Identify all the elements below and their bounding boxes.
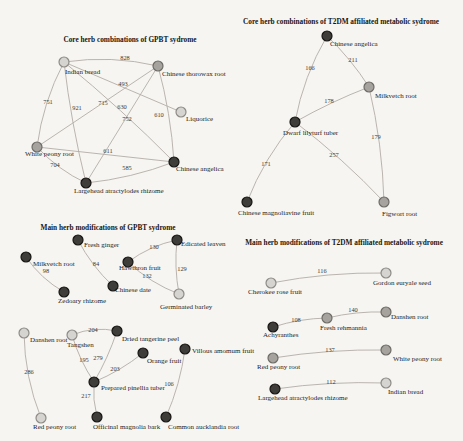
node-label-common-aucklandia-root: Common aucklandia root bbox=[168, 423, 239, 431]
edge-weight-largehead-atractylodes-rhizome--indian-bread: 112 bbox=[326, 378, 335, 385]
edge-weight-hawthron-fruit--germinated-barley: 132 bbox=[142, 272, 152, 279]
edge-weight-indian-bread--chinese-thorowax-root: 828 bbox=[120, 54, 130, 61]
edge-weight-chinese-thorowax-root--largehead-atractylodes-rhizome: 752 bbox=[122, 115, 132, 122]
edge-weight-milkvetch-root--figwort-root: 179 bbox=[371, 133, 381, 140]
panel-main-gpbt: Main herb modifications of GPBT sydrome9… bbox=[19, 223, 254, 431]
edge-weight-edicated-leaven--germinated-barley: 129 bbox=[177, 265, 187, 272]
node-label-milkvetch-root: Milkvetch root bbox=[33, 260, 75, 268]
node-label-chinese-angelica: Chinese angelica bbox=[330, 40, 379, 48]
panel-title-core-t2dm: Core herb combinations of T2DM affiliate… bbox=[243, 17, 440, 26]
node-dwarf-lilyturf-tuber bbox=[290, 117, 300, 127]
edge-weight-largehead-atractylodes-rhizome--chinese-angelica: 585 bbox=[122, 164, 132, 171]
node-label-chinese-date: Chinese date bbox=[115, 286, 151, 294]
node-white-peony-root bbox=[381, 345, 391, 355]
edge-weight-tangshen--prepared-pinellia-tuber: 195 bbox=[79, 356, 89, 363]
node-zedoary-rhizome bbox=[59, 287, 69, 297]
figure-canvas: Core herb combinations of GPBT sydrome82… bbox=[0, 0, 463, 441]
node-prepared-pinellia-tuber bbox=[89, 377, 99, 387]
node-figwort-root bbox=[379, 197, 389, 207]
node-label-white-peony-root: White peony root bbox=[25, 150, 74, 158]
node-label-largehead-atractylodes-rhizome: Largehead atractylodes rhizome bbox=[258, 394, 348, 402]
node-milkvetch-root bbox=[364, 82, 374, 92]
edge-weight-chinese-thorowax-root--white-peony-root: 715 bbox=[98, 99, 108, 106]
node-label-white-peony-root: White peony root bbox=[393, 355, 442, 363]
node-tangshen bbox=[67, 330, 77, 340]
node-label-milkvetch-root: Milkvetch root bbox=[375, 92, 417, 100]
edge-weight-dwarf-lilyturf-tuber--chinese-magnoliavine-fruit: 171 bbox=[261, 160, 271, 167]
node-danshen-root bbox=[381, 307, 391, 317]
node-fresh-rehmannia bbox=[322, 313, 332, 323]
node-red-peony-root bbox=[36, 413, 46, 423]
node-label-chinese-thorowax-root: Chinese thorowax root bbox=[162, 70, 226, 78]
node-label-dwarf-lilyturf-tuber: Dwarf lilyturf tuber bbox=[283, 129, 339, 137]
panel-title-core-gpbt: Core herb combinations of GPBT sydrome bbox=[63, 35, 197, 44]
node-cherokee-rose-fruit bbox=[266, 278, 276, 288]
node-germinated-barley bbox=[174, 289, 184, 299]
node-label-danshen-root: Danshen root bbox=[30, 336, 68, 344]
edge-dwarf-lilyturf-tuber--milkvetch-root bbox=[295, 87, 369, 122]
node-label-tangshen: Tangshen bbox=[67, 341, 94, 349]
node-label-largehead-atractylodes-rhizome: Largehead atractylodes rhizome bbox=[74, 187, 164, 195]
edge-weight-cherokee-rose-fruit--gordon-euryale-seed: 116 bbox=[317, 267, 326, 274]
node-label-indian-bread: Indian bread bbox=[65, 68, 101, 76]
edge-weight-chinese-angelica--milkvetch-root: 211 bbox=[348, 56, 357, 63]
node-red-peony-root bbox=[268, 353, 278, 363]
node-label-gordon-euryale-seed: Gordon euryale seed bbox=[373, 279, 431, 287]
panel-core-gpbt: Core herb combinations of GPBT sydrome82… bbox=[25, 35, 226, 195]
node-label-red-peony-root: Red peony root bbox=[33, 423, 76, 431]
node-label-figwort-root: Figwort root bbox=[382, 210, 417, 218]
edge-weight-fresh-rehmannia--danshen-root: 140 bbox=[348, 306, 358, 313]
node-officinal-magnolia-bark bbox=[92, 412, 102, 422]
edge-weight-indian-bread--white-peony-root: 751 bbox=[43, 98, 53, 105]
edge-weight-indian-bread--chinese-angelica: 630 bbox=[117, 103, 127, 110]
edge-danshen-root--red-peony-root bbox=[24, 333, 41, 418]
edge-chinese-angelica--dwarf-lilyturf-tuber bbox=[295, 36, 327, 122]
node-label-fresh-ginger: Fresh ginger bbox=[84, 241, 120, 249]
edge-milkvetch-root--figwort-root bbox=[369, 87, 384, 202]
node-label-liquorice: Liquorice bbox=[186, 115, 213, 123]
herb-network-figure: Core herb combinations of GPBT sydrome82… bbox=[0, 0, 463, 441]
node-liquorice bbox=[176, 107, 186, 117]
edge-weight-achyranthes--fresh-rehmannia: 108 bbox=[291, 316, 301, 323]
node-label-chinese-angelica: Chinese angelica bbox=[176, 165, 225, 173]
edge-weight-indian-bread--liquorice: 493 bbox=[118, 80, 128, 87]
node-label-chinese-magnoliavine-fruit: Chinese magnoliavine fruit bbox=[238, 209, 314, 217]
node-fresh-ginger bbox=[73, 235, 83, 245]
node-label-fresh-rehmannia: Fresh rehmannia bbox=[320, 324, 368, 332]
edge-weight-chinese-thorowax-root--chinese-angelica: 610 bbox=[154, 111, 164, 118]
edge-weight-villous-amomum-fruit--common-aucklandia-root: 106 bbox=[164, 380, 174, 387]
edge-weight-danshen-root--red-peony-root: 286 bbox=[24, 368, 34, 375]
node-dried-tangerine-peel bbox=[112, 326, 122, 336]
node-common-aucklandia-root bbox=[161, 412, 171, 422]
node-indian-bread bbox=[59, 57, 69, 67]
edge-indian-bread--largehead-atractylodes-rhizome bbox=[64, 62, 86, 183]
edge-weight-indian-bread--largehead-atractylodes-rhizome: 921 bbox=[72, 104, 82, 111]
node-label-prepared-pinellia-tuber: Prepared pinellia tuber bbox=[101, 384, 165, 392]
node-label-germinated-barley: Germinated barley bbox=[160, 303, 213, 311]
edge-cherokee-rose-fruit--gordon-euryale-seed bbox=[271, 273, 386, 283]
node-villous-amomum-fruit bbox=[180, 344, 190, 354]
node-milkvetch-root bbox=[21, 252, 31, 262]
node-danshen-root bbox=[19, 328, 29, 338]
panel-title-main-t2dm: Main herb modifications of T2DM affiliat… bbox=[245, 238, 444, 247]
node-label-officinal-magnolia-bark: Officinal magnolia bark bbox=[93, 423, 161, 431]
node-label-red-peony-root: Red peony root bbox=[257, 363, 300, 371]
edge-weight-dwarf-lilyturf-tuber--figwort-root: 257 bbox=[329, 151, 339, 158]
edge-weight-dwarf-lilyturf-tuber--milkvetch-root: 178 bbox=[324, 97, 334, 104]
node-label-indian-bread: Indian bread bbox=[388, 388, 424, 396]
edge-weight-fresh-ginger--chinese-date: 84 bbox=[93, 260, 100, 267]
node-label-danshen-root: Danshen root bbox=[391, 313, 429, 321]
node-label-dried-tangerine-peel: Dried tangerine peel bbox=[122, 335, 179, 343]
panel-main-t2dm: Main herb modifications of T2DM affiliat… bbox=[245, 238, 444, 402]
edge-weight-dried-tangerine-peel--prepared-pinellia-tuber: 279 bbox=[93, 354, 103, 361]
edge-weight-orange-fruit--prepared-pinellia-tuber: 203 bbox=[110, 365, 120, 372]
panel-core-t2dm: Core herb combinations of T2DM affiliate… bbox=[238, 17, 440, 218]
node-label-achyranthes: Achyranthes bbox=[263, 331, 299, 339]
node-indian-bread bbox=[381, 378, 391, 388]
edge-chinese-thorowax-root--white-peony-root bbox=[37, 66, 158, 147]
node-gordon-euryale-seed bbox=[381, 268, 391, 278]
edge-indian-bread--chinese-thorowax-root bbox=[64, 59, 158, 66]
node-chinese-magnoliavine-fruit bbox=[242, 197, 252, 207]
node-label-cherokee-rose-fruit: Cherokee rose fruit bbox=[248, 288, 302, 296]
panel-title-main-gpbt: Main herb modifications of GPBT sydrome bbox=[41, 223, 177, 232]
